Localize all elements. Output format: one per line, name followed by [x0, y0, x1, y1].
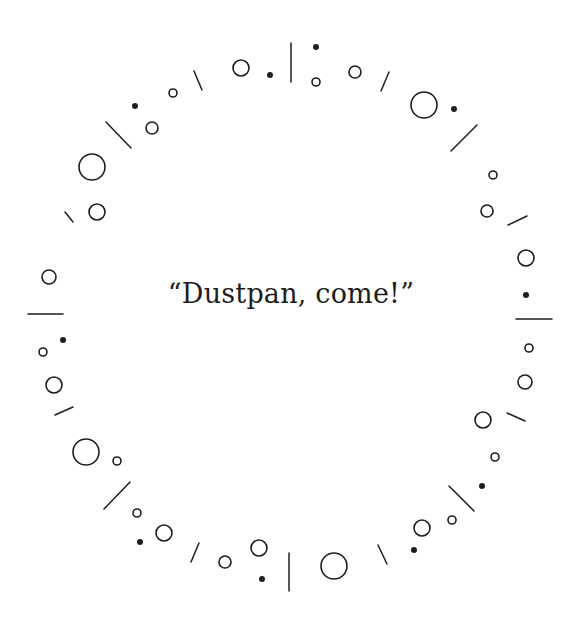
ring-dash-icon — [378, 545, 387, 564]
ring-circle-icon — [525, 344, 533, 352]
ring-dash-icon — [194, 71, 202, 90]
ring-circle-icon — [518, 375, 532, 389]
ring-dash-icon — [381, 72, 389, 91]
ring-circle-icon — [251, 540, 267, 556]
ring-dot-icon — [313, 44, 319, 50]
ring-circle-icon — [146, 122, 158, 134]
ring-circle-icon — [46, 377, 62, 393]
ring-circle-icon — [448, 516, 456, 524]
ring-dash-icon — [55, 407, 73, 415]
ring-circle-icon — [156, 525, 172, 541]
ring-circle-icon — [113, 457, 121, 465]
ring-circle-icon — [481, 205, 493, 217]
circular-ornament-ring — [0, 0, 582, 628]
ring-dot-icon — [411, 547, 417, 553]
ring-circle-icon — [411, 92, 437, 118]
ring-circle-icon — [349, 66, 361, 78]
ring-circle-icon — [219, 556, 231, 568]
ring-circle-icon — [321, 553, 347, 579]
ring-dot-icon — [479, 483, 485, 489]
ring-circle-icon — [39, 348, 47, 356]
ring-dot-icon — [451, 106, 457, 112]
ring-circle-icon — [489, 171, 497, 179]
ring-circle-icon — [233, 60, 249, 76]
ring-circle-icon — [73, 439, 99, 465]
ring-dot-icon — [267, 72, 273, 78]
ring-circle-icon — [414, 520, 430, 536]
ring-dash-icon — [451, 125, 477, 151]
ring-dash-icon — [449, 486, 474, 511]
ring-dash-icon — [65, 212, 73, 222]
ring-circle-icon — [475, 412, 491, 428]
ring-dash-icon — [104, 482, 130, 509]
ring-circle-icon — [312, 78, 320, 86]
ring-circle-icon — [169, 89, 177, 97]
ring-circle-icon — [89, 204, 105, 220]
ring-dot-icon — [132, 103, 138, 109]
ring-dot-icon — [137, 539, 143, 545]
ring-circle-icon — [518, 250, 534, 266]
ring-dot-icon — [60, 337, 66, 343]
ring-dot-icon — [259, 576, 265, 582]
ring-dash-icon — [106, 122, 131, 148]
ring-circle-icon — [79, 154, 105, 180]
ring-dash-icon — [507, 413, 525, 421]
ring-circle-icon — [133, 509, 141, 517]
ring-circle-icon — [491, 453, 499, 461]
ring-dash-icon — [508, 216, 527, 225]
quote-text: “Dustpan, come!” — [0, 278, 582, 309]
ring-dash-icon — [191, 543, 199, 562]
